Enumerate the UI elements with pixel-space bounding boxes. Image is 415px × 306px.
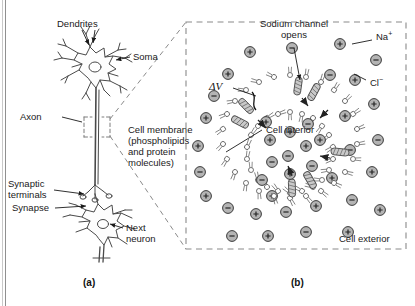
- neuron-figure: [54, 26, 135, 262]
- next-neuron-shape: [63, 194, 135, 262]
- axon-shaft: [95, 88, 96, 185]
- label-synapse: Synapse: [12, 202, 49, 213]
- label-soma: Soma: [133, 51, 158, 62]
- leader-dendrites: [82, 30, 89, 45]
- label-axon: Axon: [20, 111, 42, 122]
- figure-canvas: [0, 0, 415, 306]
- leader-sodium-channel: [294, 48, 300, 80]
- label-next-neuron: Next neuron: [126, 222, 156, 244]
- panel-a-label: (a): [83, 277, 95, 288]
- leader-axon: [62, 117, 82, 122]
- label-delta-v: ΔV: [209, 80, 222, 92]
- leader-cell-membrane: [226, 130, 262, 152]
- label-sodium-ion: Na+: [376, 30, 392, 42]
- label-synaptic-terminals: Synaptic terminals: [8, 178, 47, 200]
- label-cell-exterior: Cell exterior: [339, 233, 390, 244]
- label-cell-interior: Cell interior: [266, 124, 314, 135]
- label-cell-membrane: Cell membrane (phospholipids and protein…: [128, 124, 192, 168]
- axon-magnify-bracket: [84, 117, 110, 137]
- label-dendrites: Dendrites: [57, 18, 98, 29]
- leader-na: [352, 40, 372, 44]
- synaptic-terminals-shape: [80, 185, 112, 202]
- panel-b-label: (b): [291, 277, 304, 288]
- label-chloride-ion: Cl−: [370, 76, 383, 88]
- sodium-channel-protein: [293, 77, 302, 96]
- label-sodium-channel-opens: Sodium channel opens: [239, 18, 349, 40]
- leader-synaptic-terminals: [54, 190, 84, 194]
